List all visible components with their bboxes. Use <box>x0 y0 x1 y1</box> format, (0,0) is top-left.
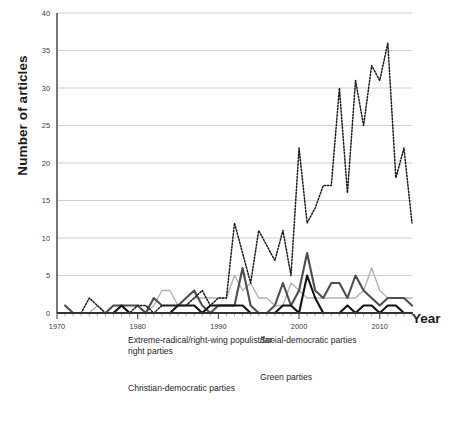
y-axis-tick-label: 25 <box>42 121 50 130</box>
y-axis-tick-label: 15 <box>42 196 50 205</box>
legend-item-green: Green parties <box>222 372 440 383</box>
y-axis-label: Number of articles <box>15 36 30 196</box>
legend-item-christian-democratic: Christian-democratic parties <box>90 383 278 394</box>
chart-legend: Extreme-radical/right-wing populist/far-… <box>0 330 455 425</box>
y-axis-tick-label: 10 <box>42 234 50 243</box>
legend-item-social-democratic: Social-democratic parties <box>222 335 440 346</box>
chart-figure: Number of articles Year 0510152025303540… <box>0 0 455 425</box>
y-axis-tick-label: 30 <box>42 84 50 93</box>
data-series-layer <box>65 43 412 313</box>
y-axis-tick-label: 40 <box>42 9 50 18</box>
y-axis-tick-labels: 0510152025303540 <box>42 9 50 318</box>
y-axis-tick-label: 0 <box>46 309 50 318</box>
x-axis-label: Year <box>412 311 441 326</box>
y-axis-tick-label: 35 <box>42 46 50 55</box>
grid-lines <box>57 13 412 313</box>
data-series-social_democratic <box>65 253 412 313</box>
legend-label-christian-democratic: Christian-democratic parties <box>128 383 278 394</box>
legend-label-green: Green parties <box>260 372 440 383</box>
data-series-far_right <box>65 43 412 313</box>
y-axis-tick-label: 20 <box>42 159 50 168</box>
legend-label-social-democratic: Social-democratic parties <box>260 335 440 346</box>
y-axis-tick-label: 5 <box>46 271 50 280</box>
chart-plot-area: 0510152025303540 19701980199020002010 <box>0 0 455 335</box>
